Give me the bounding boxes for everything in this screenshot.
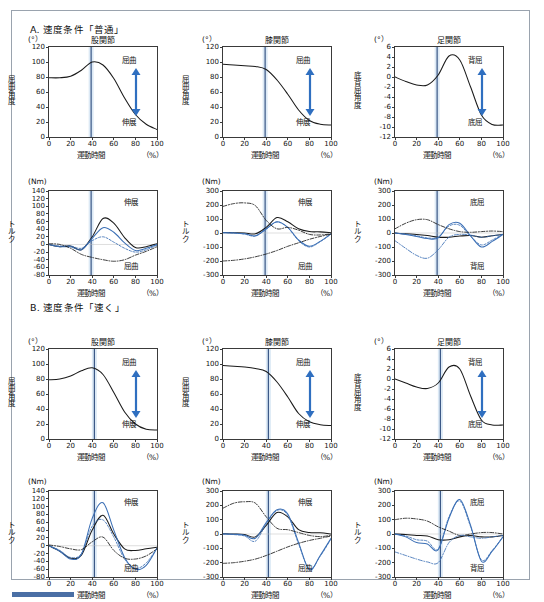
ytick-mark [392, 562, 395, 563]
ytick-label: 0 [366, 530, 391, 538]
plot-svg-B-ankle-torque [395, 491, 503, 577]
curve-series-2 [395, 500, 503, 563]
ytick-label: 300 [366, 487, 391, 495]
ytick-mark [392, 548, 395, 549]
curve-series-3 [395, 501, 503, 561]
panel-B-ankle-torque: (Nm)-300-200-1000100200300020406080100トル… [0, 0, 544, 602]
ytick-label: 200 [366, 501, 391, 509]
xtick-label: 0 [385, 580, 405, 588]
ytick-label: -100 [366, 544, 391, 552]
xtick-label: 20 [407, 580, 427, 588]
xtick-label: 60 [450, 580, 470, 588]
direction-negative-B-ankle-torque: 背屈 [470, 562, 484, 573]
x-axis-unit-B-ankle-torque: （%） [488, 589, 509, 600]
ytick-mark [392, 491, 395, 492]
xtick-label: 80 [471, 580, 491, 588]
plot-area-B-ankle-torque [394, 490, 504, 578]
x-axis-label-B-ankle-torque: 運動時間 [423, 589, 451, 600]
direction-positive-B-ankle-torque: 底屈 [470, 496, 484, 507]
y-axis-label-B-ankle-torque: トルク [353, 522, 362, 545]
ytick-mark [392, 519, 395, 520]
xtick-label: 100 [493, 580, 513, 588]
curve-series-4 [395, 518, 503, 535]
xtick-label: 40 [428, 580, 448, 588]
ytick-label: 100 [366, 516, 391, 524]
ytick-mark [392, 534, 395, 535]
unit-label-B-ankle-torque: (Nm) [374, 477, 393, 486]
ytick-label: -200 [366, 559, 391, 567]
ytick-mark [392, 505, 395, 506]
